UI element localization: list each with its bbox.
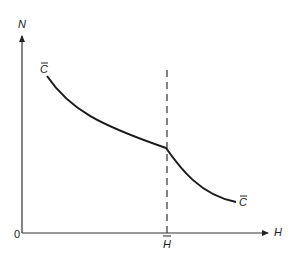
curve-start-label: C [40, 63, 48, 75]
origin-label: 0 [14, 228, 20, 240]
x-axis-label: H [274, 226, 282, 238]
curve-c [47, 76, 236, 202]
curve-end-label: C [239, 196, 247, 208]
diagram-canvas: N H 0 H C C [0, 0, 296, 259]
threshold-label: H [163, 238, 171, 250]
y-axis-label: N [18, 18, 26, 30]
